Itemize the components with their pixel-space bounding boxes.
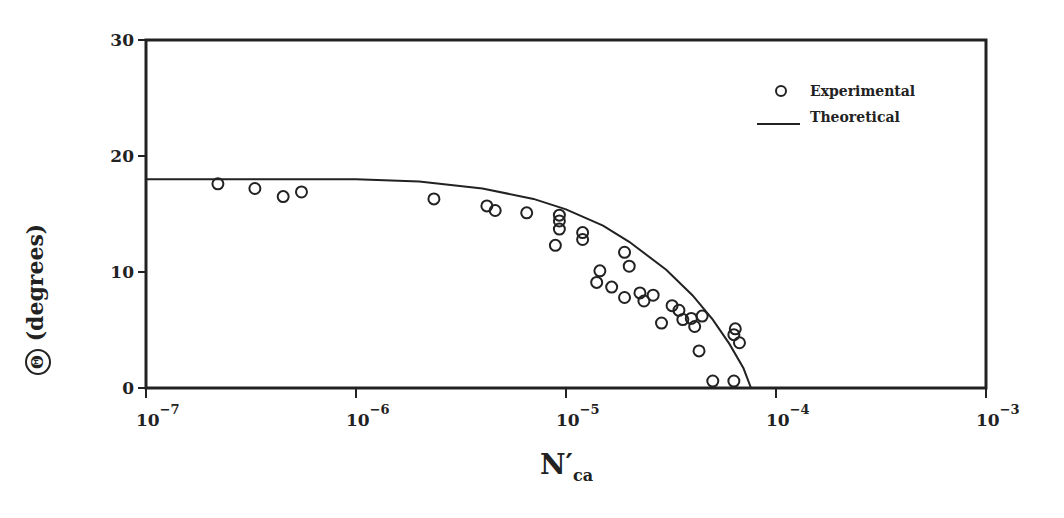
experimental-point — [428, 193, 439, 204]
experimental-point — [728, 376, 739, 387]
experimental-point — [624, 261, 635, 272]
experimental-point — [554, 224, 565, 235]
y-tick-label: 30 — [110, 30, 134, 50]
experimental-point — [521, 207, 532, 218]
experimental-point — [619, 292, 630, 303]
x-axis-title: N′ca — [540, 448, 593, 485]
y-axis-title: Θ (degrees) — [22, 235, 72, 375]
experimental-point — [648, 290, 659, 301]
experimental-point — [656, 318, 667, 329]
experimental-point — [550, 240, 561, 251]
experimental-point — [619, 247, 630, 258]
experimental-point — [296, 186, 307, 197]
legend-label-experimental: Experimental — [810, 83, 915, 99]
experimental-point — [606, 282, 617, 293]
y-tick-label: 20 — [110, 146, 134, 166]
experimental-point — [707, 376, 718, 387]
experimental-point — [594, 265, 605, 276]
experimental-point — [694, 345, 705, 356]
theoretical-curve — [146, 179, 751, 388]
theta-symbol: Θ — [25, 349, 51, 375]
x-tick-label: 10−7 — [136, 402, 180, 430]
experimental-point — [278, 191, 289, 202]
y-tick-label: 10 — [110, 262, 134, 282]
legend-circle-icon — [776, 86, 786, 96]
experimental-point — [249, 183, 260, 194]
experimental-point — [591, 277, 602, 288]
experimental-point — [734, 337, 745, 348]
y-tick-label: 0 — [122, 378, 134, 398]
legend-label-theoretical: Theoretical — [810, 109, 900, 125]
x-tick-label: 10−6 — [346, 402, 390, 430]
x-tick-label: 10−4 — [766, 402, 810, 430]
x-axis-main: N′ — [540, 448, 573, 481]
experimental-point — [577, 234, 588, 245]
x-tick-label: 10−3 — [976, 402, 1020, 430]
y-axis-unit: (degrees) — [22, 224, 48, 342]
x-axis-subscript: ca — [573, 466, 593, 485]
chart: 010203010−710−610−510−410−3ExperimentalT… — [0, 0, 1064, 518]
x-tick-label: 10−5 — [556, 402, 600, 430]
